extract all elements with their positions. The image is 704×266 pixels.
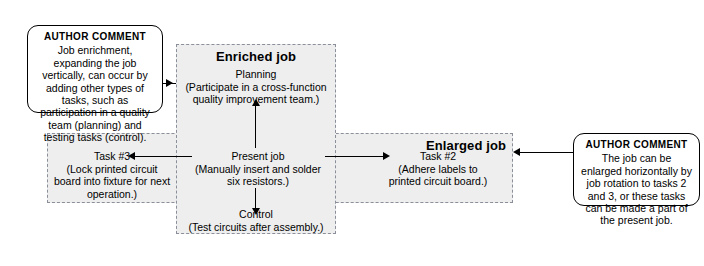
node-control-label: Control: [166, 208, 346, 221]
author-comment-right-heading: AUTHOR COMMENT: [580, 139, 693, 151]
node-planning: Planning (Participate in a cross-functio…: [170, 68, 342, 106]
node-present-job-detail: (Manually insert and solder six resistor…: [192, 163, 324, 188]
author-comment-right-body: The job can be enlarged horizontally by …: [580, 152, 693, 226]
node-control: Control (Test circuits after assembly.): [166, 208, 346, 233]
node-task-2-detail: (Adhere labels to printed circuit board.…: [388, 163, 488, 188]
connector-right-callout-to-enlarged: [519, 152, 573, 153]
node-task-3: Task #3 (Lock printed circuit board into…: [52, 150, 172, 200]
node-present-job-label: Present job: [192, 150, 324, 163]
enriched-job-title: Enriched job: [176, 49, 336, 64]
node-present-job: Present job (Manually insert and solder …: [192, 150, 324, 188]
node-task-3-detail: (Lock printed circuit board into fixture…: [52, 163, 172, 201]
connector-present-to-planning: [255, 104, 256, 148]
node-planning-label: Planning: [170, 68, 342, 81]
author-comment-left: AUTHOR COMMENT Job enrichment, expanding…: [27, 25, 163, 113]
author-comment-left-heading: AUTHOR COMMENT: [34, 31, 156, 43]
diagram-canvas: Enriched job Enlarged job Planning (Part…: [0, 0, 704, 266]
author-comment-left-body: Job enrichment, expanding the job vertic…: [34, 44, 156, 143]
connector-present-to-task2: [325, 156, 383, 157]
arrow-left-icon: [513, 148, 520, 156]
node-task-3-label: Task #3: [52, 150, 172, 163]
connector-present-to-control: [255, 188, 256, 210]
node-task-2-label: Task #2: [388, 150, 488, 163]
node-control-detail: (Test circuits after assembly.): [166, 221, 346, 234]
node-task-2: Task #2 (Adhere labels to printed circui…: [388, 150, 488, 188]
author-comment-right: AUTHOR COMMENT The job can be enlarged h…: [573, 133, 700, 206]
node-planning-detail: (Participate in a cross-function quality…: [170, 81, 342, 106]
